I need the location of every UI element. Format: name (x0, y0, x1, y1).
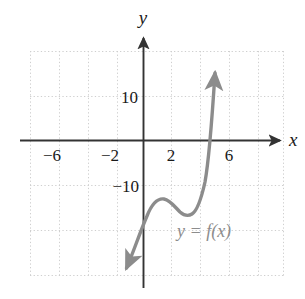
x-tick-label-minus-6: −6 (43, 147, 61, 164)
grid-horizontal-lines (30, 52, 284, 276)
x-tick-label-2: 2 (167, 147, 176, 164)
function-graph-figure: y x −6 −2 2 6 10 −10 y = f(x) (0, 0, 305, 299)
x-tick-label-minus-2: −2 (101, 147, 119, 164)
x-tick-label-6: 6 (225, 147, 234, 164)
y-tick-label-10: 10 (121, 89, 138, 106)
y-tick-label-minus-10: −10 (112, 178, 139, 195)
y-axis-label: y (139, 8, 147, 27)
curve-equation-label: y = f(x) (177, 222, 231, 240)
grid-vertical-lines (31, 51, 284, 276)
x-axis-label: x (289, 130, 297, 149)
